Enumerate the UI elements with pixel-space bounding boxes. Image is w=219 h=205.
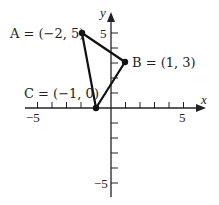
point-b bbox=[122, 59, 128, 65]
point-c bbox=[93, 105, 99, 111]
y-tick-label-5: 5 bbox=[100, 26, 107, 41]
y-axis-label: y bbox=[98, 5, 106, 20]
y-axis-arrow-icon bbox=[107, 12, 115, 22]
x-tick-label-neg5: −5 bbox=[26, 110, 40, 125]
x-axis-label: x bbox=[200, 92, 207, 107]
point-a-label: A = (−2, 5) bbox=[9, 26, 84, 41]
point-b-label: B = (1, 3) bbox=[132, 55, 196, 70]
coordinate-plot: −5 5 5 −5 x y A = (−2, 5) B = (1, 3) C =… bbox=[0, 0, 219, 205]
point-c-label: C = (−1, 0) bbox=[24, 86, 99, 101]
y-tick-label-neg5: −5 bbox=[94, 176, 108, 191]
x-tick-label-5: 5 bbox=[179, 110, 186, 125]
